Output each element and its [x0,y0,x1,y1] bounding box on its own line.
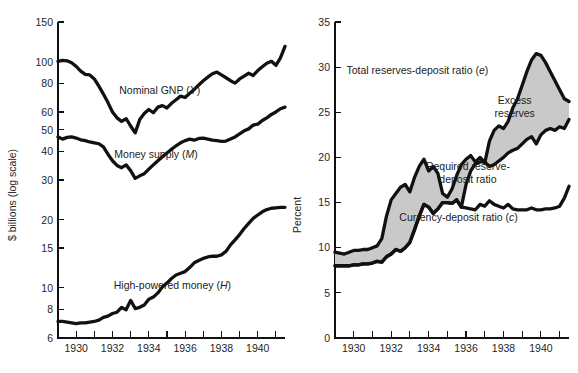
x-tick-label: 1930 [64,342,88,354]
y-tick-label: 20 [41,214,53,226]
x-tick-label: 1932 [101,342,125,354]
annotation-total-reserves-deposit-ratio-e: Total reserves-deposit ratio (e) [346,64,488,76]
left-chart-svg: 6810152030405060801001501930193219341936… [0,0,289,373]
y-tick-label: 8 [47,303,53,315]
y-tick-label: 100 [35,56,53,68]
series-line-high-powered-money-h [58,207,285,323]
y-tick-label: 0 [324,332,330,344]
x-tick-label: 1938 [492,342,516,354]
y-tick-label: 10 [318,241,330,253]
x-tick-label: 1936 [173,342,197,354]
x-tick-label: 1940 [246,342,270,354]
annotation-required-reserve-deposit-ratio: Required reserve-deposit ratio [426,160,511,185]
right-chart-svg: 05101520253035193019321934193619381940Pe… [289,0,578,373]
y-tick-label: 25 [318,106,330,118]
y-tick-label: 80 [41,77,53,89]
annotation-excess-reserves: Excessreserves [495,94,535,119]
x-tick-label: 1938 [210,342,234,354]
y-axis-title: $ billions (log scale) [6,149,18,241]
chart-panel-left: 6810152030405060801001501930193219341936… [0,0,289,373]
x-tick-label: 1934 [137,342,161,354]
x-tick-label: 1932 [379,342,403,354]
y-tick-label: 40 [41,145,53,157]
y-tick-label: 15 [318,196,330,208]
annotation-nominal-gnp-y: Nominal GNP (Y) [119,84,200,96]
annotation-money-supply-m: Money supply (M) [114,148,197,160]
annotation-high-powered-money-h: High-powered money (H) [114,279,231,291]
y-tick-label: 20 [318,151,330,163]
y-tick-label: 60 [41,106,53,118]
y-tick-label: 30 [41,174,53,186]
y-tick-label: 30 [318,61,330,73]
annotation-currency-deposit-ratio-c: Currency-deposit ratio (c) [399,211,517,223]
y-tick-label: 35 [318,16,330,28]
x-tick-label: 1940 [529,342,553,354]
y-tick-label: 150 [35,16,53,28]
figure-root: 6810152030405060801001501930193219341936… [0,0,578,373]
y-tick-label: 50 [41,124,53,136]
y-tick-label: 10 [41,282,53,294]
x-tick-label: 1934 [417,342,441,354]
y-tick-label: 15 [41,242,53,254]
x-tick-label: 1930 [342,342,366,354]
y-axis-title: Percent [291,197,303,233]
chart-panel-right: 05101520253035193019321934193619381940Pe… [289,0,578,373]
y-tick-label: 5 [324,287,330,299]
x-tick-label: 1936 [454,342,478,354]
y-tick-label: 6 [47,332,53,344]
series-line-money-supply-m [58,107,285,178]
